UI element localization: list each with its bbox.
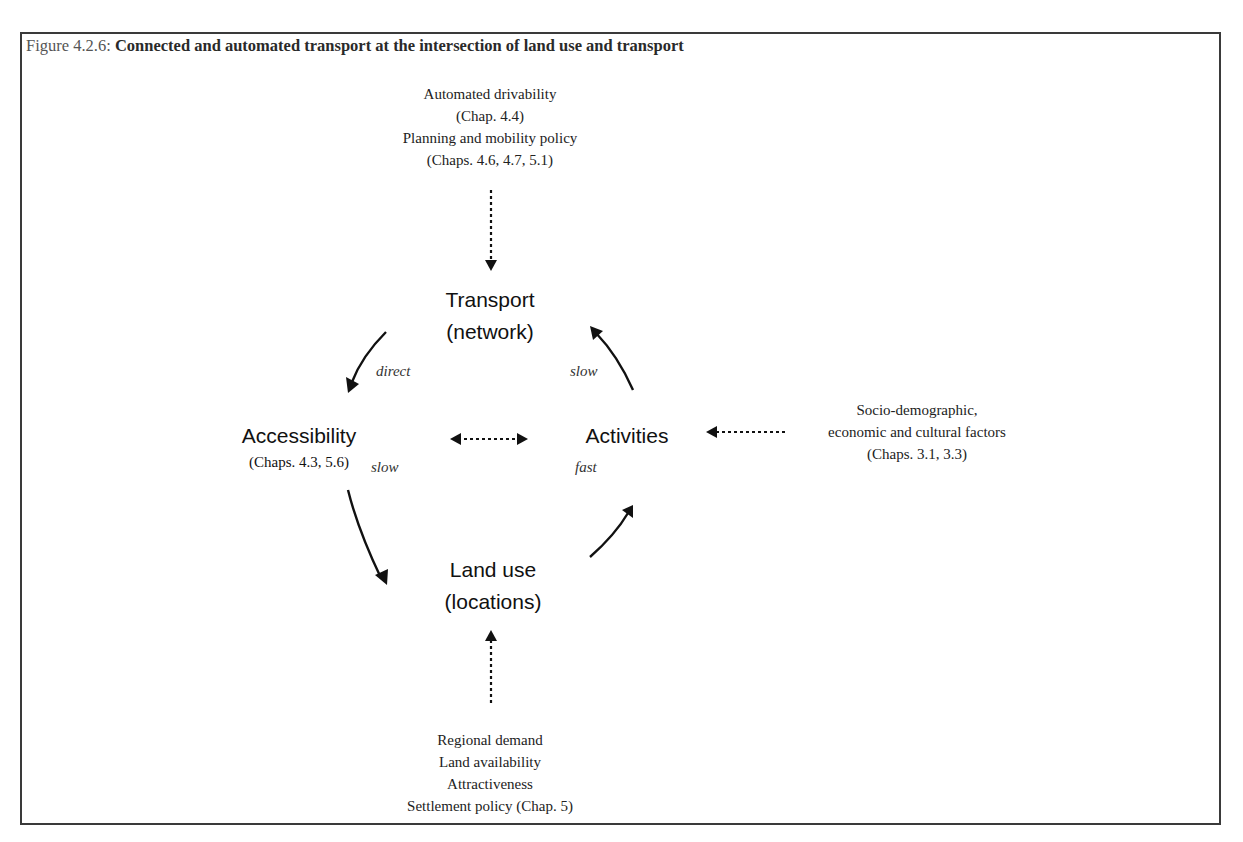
right-factor-line: economic and cultural factors — [828, 421, 1006, 443]
top-factor-line: (Chaps. 4.6, 4.7, 5.1) — [403, 149, 578, 171]
top-factor-line: (Chap. 4.4) — [403, 105, 578, 127]
edge-label-slow-bottom: slow — [371, 459, 399, 476]
node-activities: Activities — [586, 420, 669, 452]
figure-title-text: Connected and automated transport at the… — [115, 36, 684, 55]
edge-label-slow-top: slow — [570, 363, 598, 380]
top-factors: Automated drivability (Chap. 4.4) Planni… — [403, 83, 578, 171]
bottom-factor-line: Settlement policy (Chap. 5) — [407, 795, 573, 817]
top-factor-line: Planning and mobility policy — [403, 127, 578, 149]
node-transport-subtitle: (network) — [445, 316, 534, 348]
figure-number: Figure 4.2.6: — [26, 36, 111, 55]
edge-label-direct: direct — [376, 363, 410, 380]
node-land-use-title: Land use — [445, 554, 542, 586]
figure-title: Figure 4.2.6: Connected and automated tr… — [26, 36, 684, 56]
bottom-factors: Regional demand Land availability Attrac… — [407, 729, 573, 817]
node-land-use: Land use (locations) — [445, 554, 542, 618]
right-factor-line: Socio-demographic, — [828, 399, 1006, 421]
top-factor-line: Automated drivability — [403, 83, 578, 105]
node-accessibility-reference: (Chaps. 4.3, 5.6) — [242, 452, 356, 472]
bottom-factor-line: Regional demand — [407, 729, 573, 751]
edge-label-fast: fast — [575, 459, 597, 476]
node-accessibility-title: Accessibility — [242, 420, 356, 452]
right-factor-line: (Chaps. 3.1, 3.3) — [828, 443, 1006, 465]
node-transport: Transport (network) — [445, 284, 534, 348]
bottom-factor-line: Land availability — [407, 751, 573, 773]
right-factors: Socio-demographic, economic and cultural… — [828, 399, 1006, 465]
node-land-use-subtitle: (locations) — [445, 586, 542, 618]
bottom-factor-line: Attractiveness — [407, 773, 573, 795]
node-transport-title: Transport — [445, 284, 534, 316]
node-activities-title: Activities — [586, 420, 669, 452]
node-accessibility: Accessibility (Chaps. 4.3, 5.6) — [242, 420, 356, 472]
